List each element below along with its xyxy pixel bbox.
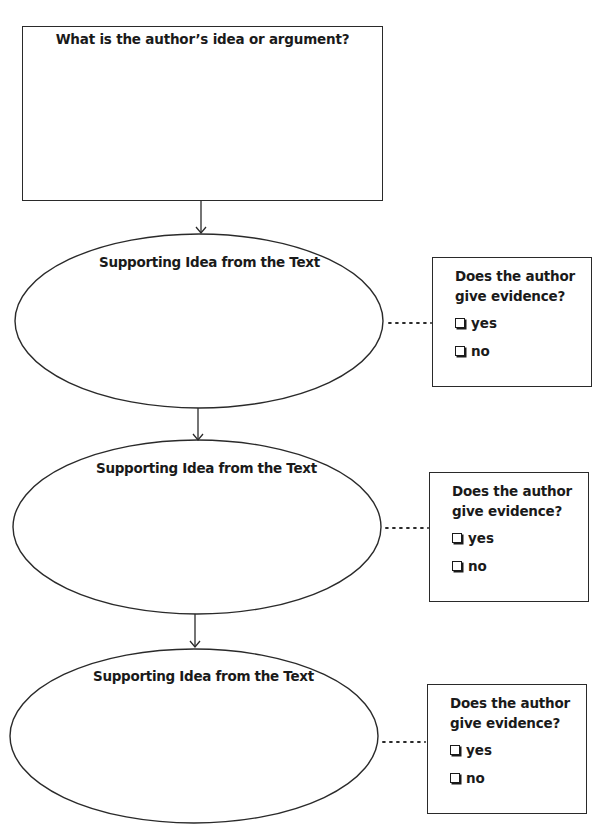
evidence-box-3: Does the author give evidence? yes no (427, 684, 587, 814)
evidence-box-1: Does the author give evidence? yes no (432, 257, 592, 387)
main-idea-title: What is the author’s idea or argument? (23, 31, 382, 47)
arrow-2 (193, 408, 203, 440)
evidence-question-line: Does the author (450, 693, 570, 713)
evidence-box-2: Does the author give evidence? yes no (429, 472, 589, 602)
evidence-question-3: Does the author give evidence? (450, 693, 570, 733)
option-label: yes (466, 742, 492, 758)
evidence-question-line: Does the author (455, 266, 575, 286)
checkbox-icon[interactable] (452, 533, 462, 543)
evidence-option-no-1[interactable]: no (455, 343, 490, 359)
evidence-question-2: Does the author give evidence? (452, 481, 572, 521)
evidence-question-line: give evidence? (452, 501, 572, 521)
evidence-question-line: Does the author (452, 481, 572, 501)
checkbox-icon[interactable] (452, 561, 462, 571)
checkbox-icon[interactable] (455, 346, 465, 356)
checkbox-icon[interactable] (450, 773, 460, 783)
supporting-idea-label-2: Supporting Idea from the Text (96, 460, 300, 476)
evidence-question-line: give evidence? (450, 713, 570, 733)
evidence-question-line: give evidence? (455, 286, 575, 306)
evidence-option-yes-1[interactable]: yes (455, 315, 497, 331)
checkbox-icon[interactable] (450, 745, 460, 755)
option-label: yes (468, 530, 494, 546)
arrow-1 (196, 201, 206, 233)
supporting-idea-label-1: Supporting Idea from the Text (99, 254, 303, 270)
evidence-option-no-3[interactable]: no (450, 770, 485, 786)
evidence-option-yes-2[interactable]: yes (452, 530, 494, 546)
evidence-question-1: Does the author give evidence? (455, 266, 575, 306)
checkbox-icon[interactable] (455, 318, 465, 328)
option-label: no (471, 343, 490, 359)
option-label: no (466, 770, 485, 786)
evidence-option-yes-3[interactable]: yes (450, 742, 492, 758)
option-label: yes (471, 315, 497, 331)
arrow-3 (190, 614, 200, 647)
option-label: no (468, 558, 487, 574)
supporting-idea-label-3: Supporting Idea from the Text (93, 668, 297, 684)
evidence-option-no-2[interactable]: no (452, 558, 487, 574)
main-idea-box[interactable]: What is the author’s idea or argument? (22, 26, 383, 201)
